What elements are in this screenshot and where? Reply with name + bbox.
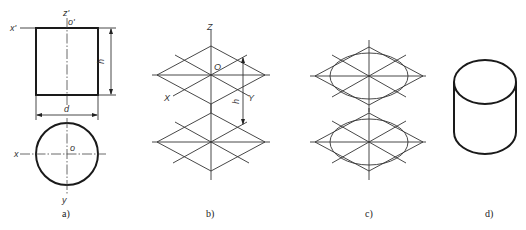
caption-a: a) — [62, 208, 70, 220]
label-h: h — [231, 99, 241, 104]
label-y: y — [61, 195, 67, 205]
label-origin: o — [70, 143, 75, 153]
label-height-h: h — [96, 59, 106, 64]
subfigure-d: d) — [454, 60, 516, 220]
label-x: x — [13, 149, 19, 159]
label-X: X — [163, 93, 171, 103]
caption-b: b) — [206, 208, 214, 220]
lower-rhombus — [152, 104, 270, 180]
lower-ellipse-construction — [310, 108, 426, 180]
subfigure-a: x' z' o' h d x y o a) — [9, 8, 116, 220]
caption-c: c) — [365, 208, 373, 220]
label-Z: Z — [206, 22, 213, 32]
label-origin-prime: o' — [68, 17, 75, 27]
label-O: O — [214, 62, 221, 72]
label-x-prime: x' — [9, 23, 17, 33]
top-view: x y o — [13, 118, 106, 205]
label-diameter-d: d — [64, 104, 70, 114]
front-view: x' z' o' h d — [9, 8, 116, 120]
subfigure-b: Z O X Y h b) — [152, 22, 270, 220]
label-Y: Y — [248, 93, 255, 103]
caption-d: d) — [485, 208, 493, 220]
upper-ellipse-construction — [310, 40, 426, 112]
subfigure-c: c) — [310, 40, 426, 220]
isometric-cylinder-construction-diagram: x' z' o' h d x y o a) — [0, 0, 526, 230]
